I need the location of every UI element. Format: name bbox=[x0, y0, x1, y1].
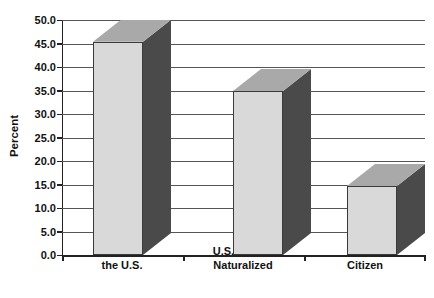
y-tick-label: 45.0 bbox=[10, 39, 56, 49]
y-tick-label: 25.0 bbox=[10, 133, 56, 143]
x-axis-category-line: the U.S. bbox=[62, 258, 182, 272]
y-tick-label: 0.0 bbox=[10, 250, 56, 260]
y-tick-label: 40.0 bbox=[10, 62, 56, 72]
bar-side-face bbox=[143, 20, 171, 255]
y-tick-label: 15.0 bbox=[10, 180, 56, 190]
y-tick-label: 30.0 bbox=[10, 109, 56, 119]
plot-area bbox=[62, 20, 425, 255]
y-tick-label: 50.0 bbox=[10, 15, 56, 25]
bar bbox=[347, 164, 425, 255]
y-tick-label: 5.0 bbox=[10, 227, 56, 237]
bar-front-face bbox=[233, 91, 283, 255]
y-tick-label: 35.0 bbox=[10, 86, 56, 96]
bar-front-face bbox=[93, 42, 143, 255]
y-tick-label: 10.0 bbox=[10, 203, 56, 213]
x-axis-category-line: Naturalized bbox=[183, 258, 303, 272]
bar bbox=[93, 20, 171, 255]
x-axis-category-line: Citizen bbox=[305, 258, 425, 272]
bar-side-face bbox=[283, 69, 311, 255]
bar-chart: Percent 50.045.040.035.030.025.020.015.0… bbox=[0, 0, 434, 298]
bar bbox=[233, 69, 311, 255]
bar-front-face bbox=[347, 186, 397, 255]
y-tick-label: 20.0 bbox=[10, 156, 56, 166]
